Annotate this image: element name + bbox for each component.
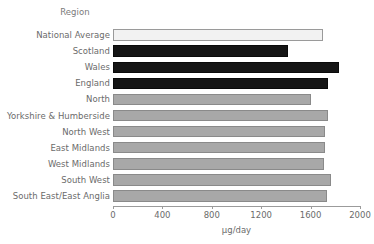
bar[interactable]: [113, 142, 325, 153]
bar[interactable]: [113, 174, 331, 185]
x-tick-mark: [360, 206, 361, 209]
chart-row: Scotland: [0, 43, 374, 59]
category-label: Yorkshire & Humberside: [7, 108, 110, 124]
category-label: Scotland: [73, 43, 110, 59]
x-tick-mark: [113, 206, 114, 209]
x-tick-mark: [311, 206, 312, 209]
category-label: Wales: [85, 59, 110, 75]
plot-area: National AverageScotlandWalesEnglandNort…: [0, 0, 374, 244]
x-axis-title: µg/day: [113, 225, 360, 235]
category-label: North West: [62, 124, 110, 140]
category-label: National Average: [36, 27, 110, 43]
x-tick-mark: [212, 206, 213, 209]
bar[interactable]: [113, 45, 288, 56]
category-label: North: [86, 91, 110, 107]
category-label: East Midlands: [50, 140, 110, 156]
category-label: South West: [61, 172, 110, 188]
x-tick-mark: [261, 206, 262, 209]
chart-row: England: [0, 75, 374, 91]
chart-row: Wales: [0, 59, 374, 75]
bar[interactable]: [113, 158, 324, 169]
chart-row: West Midlands: [0, 156, 374, 172]
x-tick-label: 0: [110, 210, 115, 220]
category-label: West Midlands: [48, 156, 110, 172]
x-tick-label: 400: [154, 210, 170, 220]
chart-row: South West: [0, 172, 374, 188]
bar[interactable]: [113, 110, 328, 121]
x-axis-line: [113, 206, 360, 207]
x-tick-label: 1200: [250, 210, 272, 220]
category-label: England: [75, 75, 110, 91]
category-label: South East/East Anglia: [13, 188, 110, 204]
bar[interactable]: [113, 126, 325, 137]
chart-row: East Midlands: [0, 140, 374, 156]
bar[interactable]: [113, 78, 328, 89]
bar[interactable]: [113, 29, 323, 40]
chart-row: North: [0, 91, 374, 107]
chart-row: National Average: [0, 27, 374, 43]
chart-row: North West: [0, 124, 374, 140]
x-tick-label: 2000: [349, 210, 371, 220]
bar[interactable]: [113, 62, 339, 73]
chart-row: South East/East Anglia: [0, 188, 374, 204]
bar[interactable]: [113, 94, 311, 105]
bar[interactable]: [113, 190, 327, 201]
chart-row: Yorkshire & Humberside: [0, 108, 374, 124]
x-tick-label: 1600: [300, 210, 322, 220]
x-tick-mark: [162, 206, 163, 209]
bar-chart: Region National AverageScotlandWalesEngl…: [0, 0, 374, 244]
x-tick-label: 800: [204, 210, 220, 220]
